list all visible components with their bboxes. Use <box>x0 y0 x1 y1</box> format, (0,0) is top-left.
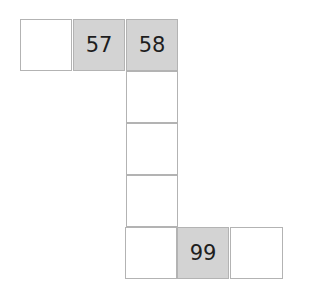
grid-cell-blank <box>20 19 72 71</box>
grid-cell-blank <box>126 71 178 123</box>
grid-cell-58: 58 <box>126 19 178 71</box>
grid-cell-blank <box>126 175 178 227</box>
grid-cell-blank <box>125 227 177 279</box>
grid-cell-99: 99 <box>177 227 229 279</box>
grid-cell-blank <box>126 123 178 175</box>
grid-cell-57: 57 <box>73 19 125 71</box>
grid-cell-blank <box>230 227 283 279</box>
